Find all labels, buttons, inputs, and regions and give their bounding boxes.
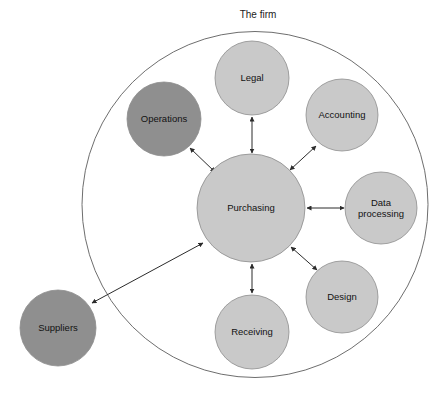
organization-relationship-diagram: The firm PurchasingLegalOperationsAccoun…: [0, 0, 439, 402]
node-label-operations: Operations: [141, 113, 188, 124]
node-accounting[interactable]: Accounting: [306, 79, 378, 151]
node-label-purchasing: Purchasing: [227, 202, 275, 213]
node-label-design: Design: [327, 291, 357, 302]
connector-purchasing-design: [291, 247, 317, 270]
connector-purchasing-suppliers: [92, 243, 203, 303]
connector-purchasing-operations: [190, 148, 215, 172]
node-label-receiving: Receiving: [231, 326, 273, 337]
node-operations[interactable]: Operations: [127, 82, 201, 156]
node-label-suppliers: Suppliers: [38, 322, 78, 333]
node-purchasing[interactable]: Purchasing: [197, 154, 305, 262]
firm-boundary-label: The firm: [240, 9, 277, 20]
node-data-processing[interactable]: Dataprocessing: [345, 172, 417, 244]
node-label-legal: Legal: [240, 72, 263, 83]
node-receiving[interactable]: Receiving: [215, 295, 289, 369]
node-suppliers[interactable]: Suppliers: [20, 290, 96, 366]
node-label-accounting: Accounting: [318, 109, 365, 120]
node-design[interactable]: Design: [306, 261, 378, 333]
nodes-layer: PurchasingLegalOperationsAccountingDatap…: [20, 41, 417, 369]
connector-purchasing-accounting: [290, 146, 316, 170]
diagram-canvas: The firm PurchasingLegalOperationsAccoun…: [0, 0, 439, 402]
node-legal[interactable]: Legal: [215, 41, 289, 115]
